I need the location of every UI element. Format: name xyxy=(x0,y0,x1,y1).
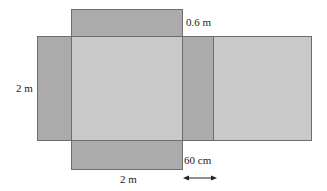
top-flap xyxy=(71,9,183,37)
bottom-flap xyxy=(71,140,183,170)
center-face xyxy=(71,36,183,141)
left-flap xyxy=(37,36,72,141)
right-flap xyxy=(182,36,214,141)
flap-width-label: 60 cm xyxy=(184,155,211,166)
right-face xyxy=(213,36,312,141)
double-arrow-icon xyxy=(183,174,217,182)
top-flap-height-label: 0.6 m xyxy=(186,17,211,28)
height-label: 2 m xyxy=(16,83,33,94)
width-label: 2 m xyxy=(120,174,137,185)
